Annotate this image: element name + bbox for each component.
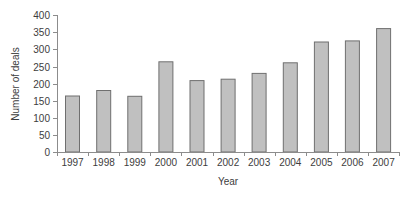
x-tick-label-2000: 2000 [155, 157, 178, 168]
bar-2001 [190, 81, 204, 152]
y-tick-label-400: 400 [33, 10, 50, 21]
bar-1999 [128, 96, 142, 152]
x-tick-label-2003: 2003 [248, 157, 271, 168]
y-tick-label-200: 200 [33, 79, 50, 90]
bar-2005 [314, 42, 328, 152]
x-tick-label-2007: 2007 [372, 157, 395, 168]
y-axis-title: Number of deals [10, 47, 21, 120]
bar-1998 [97, 91, 111, 153]
chart-canvas: 0501001502002503003504001997199819992000… [0, 0, 411, 198]
x-tick-label-1999: 1999 [124, 157, 147, 168]
x-tick-label-2006: 2006 [341, 157, 364, 168]
y-tick-label-150: 150 [33, 96, 50, 107]
y-tick-label-300: 300 [33, 44, 50, 55]
y-tick-label-50: 50 [39, 130, 51, 141]
bar-2002 [221, 79, 235, 152]
bar-2000 [159, 62, 173, 152]
x-axis-title: Year [57, 176, 399, 187]
y-tick-label-250: 250 [33, 62, 50, 73]
bar-2003 [252, 73, 266, 152]
x-tick-label-1997: 1997 [61, 157, 84, 168]
bar-1997 [66, 96, 80, 152]
bar-2007 [377, 29, 391, 152]
y-tick-label-350: 350 [33, 27, 50, 38]
deals-by-year-bar-chart: 0501001502002503003504001997199819992000… [0, 0, 411, 198]
bar-2004 [283, 63, 297, 152]
x-tick-label-1998: 1998 [93, 157, 116, 168]
x-tick-label-2005: 2005 [310, 157, 333, 168]
x-tick-label-2004: 2004 [279, 157, 302, 168]
y-tick-label-100: 100 [33, 113, 50, 124]
bar-2006 [345, 41, 359, 152]
x-tick-label-2002: 2002 [217, 157, 240, 168]
y-tick-label-0: 0 [44, 147, 50, 158]
x-tick-label-2001: 2001 [186, 157, 209, 168]
